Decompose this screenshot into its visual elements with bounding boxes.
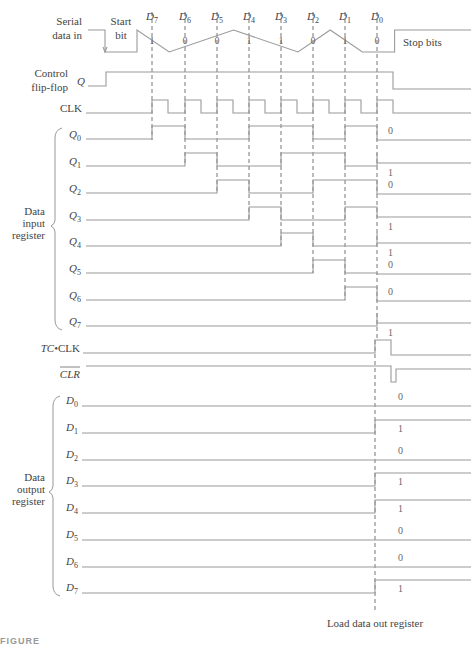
data-output-register: Data output register D00D11D20D31D41D50D… bbox=[12, 391, 471, 596]
bit-boundary-lines bbox=[152, 12, 377, 340]
final-value-d2: 0 bbox=[398, 445, 403, 456]
tc-clk-label: TC•CLK bbox=[41, 342, 80, 354]
output-group-label-1: Data bbox=[24, 471, 45, 483]
row-label-q2: Q2 bbox=[69, 182, 81, 197]
waveform-d4 bbox=[82, 500, 471, 513]
row-label-q1: Q1 bbox=[69, 155, 81, 170]
serial-data-row: Serial data in Start bit Stop bits D7D6D… bbox=[52, 10, 471, 52]
bit-names: D7D6D5D4D3D2D1D0 bbox=[145, 10, 383, 25]
row-label-d1: D1 bbox=[65, 421, 78, 436]
control-label-1: Control bbox=[34, 67, 68, 79]
bit-name-d0: D0 bbox=[370, 10, 383, 25]
start-bit-label-1: Start bbox=[111, 15, 132, 27]
waveform-d3 bbox=[82, 473, 471, 486]
bit-name-d4: D4 bbox=[242, 10, 255, 25]
final-value-q7: 1 bbox=[388, 327, 393, 338]
row-label-d7: D7 bbox=[65, 581, 78, 596]
bit-value-d7: 1 bbox=[150, 35, 155, 46]
row-label-q6: Q6 bbox=[69, 289, 81, 304]
serial-label-2: data in bbox=[52, 29, 82, 41]
output-brace bbox=[49, 396, 60, 596]
waveform-q3 bbox=[86, 207, 471, 220]
bit-name-d3: D3 bbox=[274, 10, 287, 25]
row-label-q3: Q3 bbox=[69, 209, 81, 224]
final-value-d4: 1 bbox=[398, 503, 403, 514]
clk-label: CLK bbox=[60, 102, 82, 114]
final-value-q4: 1 bbox=[388, 247, 393, 258]
waveform-q0 bbox=[86, 126, 471, 140]
waveform-q7 bbox=[86, 313, 471, 326]
waveform-d7 bbox=[82, 580, 471, 593]
final-value-q0: 0 bbox=[388, 125, 393, 136]
bit-value-d0: 0 bbox=[375, 35, 380, 46]
row-label-q5: Q5 bbox=[69, 262, 81, 277]
waveform-d1 bbox=[82, 420, 471, 433]
final-value-d3: 1 bbox=[398, 476, 403, 487]
final-value-q3: 1 bbox=[388, 221, 393, 232]
bit-name-d6: D6 bbox=[178, 10, 191, 25]
input-group-label-1: Data bbox=[24, 205, 45, 217]
row-label-d3: D3 bbox=[65, 474, 78, 489]
clr-waveform bbox=[86, 366, 471, 382]
input-brace bbox=[51, 128, 62, 330]
stop-bits-label: Stop bits bbox=[403, 36, 442, 48]
row-label-q4: Q4 bbox=[69, 235, 81, 250]
tc-clk-row: TC•CLK bbox=[41, 340, 471, 355]
control-label-2: flip-flop bbox=[31, 81, 68, 93]
tc-clk-waveform bbox=[83, 340, 471, 355]
input-group-label-3: register bbox=[12, 229, 45, 241]
data-input-register: Data input register Q00Q11Q20Q31Q41Q50Q6… bbox=[12, 125, 471, 338]
row-label-q0: Q0 bbox=[69, 128, 81, 143]
clk-waveform bbox=[86, 100, 471, 113]
bit-name-d7: D7 bbox=[145, 10, 158, 25]
bit-value-d3: 1 bbox=[279, 35, 284, 46]
bit-value-d2: 0 bbox=[311, 35, 316, 46]
final-value-q2: 0 bbox=[388, 179, 393, 190]
bit-name-d1: D1 bbox=[338, 10, 351, 25]
row-label-q7: Q7 bbox=[69, 315, 81, 330]
control-ff-row: Control flip-flop Q bbox=[31, 67, 471, 93]
bit-value-d6: 0 bbox=[183, 35, 188, 46]
bit-name-d2: D2 bbox=[306, 10, 319, 25]
final-value-d1: 1 bbox=[398, 423, 403, 434]
bit-value-d1: 1 bbox=[343, 35, 348, 46]
final-value-d6: 0 bbox=[398, 552, 403, 563]
clk-row: CLK bbox=[60, 100, 471, 114]
output-group-label-3: register bbox=[12, 495, 45, 507]
bit-value-d5: 0 bbox=[215, 35, 220, 46]
output-group-label-2: output bbox=[17, 483, 45, 495]
control-q-waveform bbox=[88, 72, 471, 89]
bit-value-d4: 1 bbox=[247, 35, 252, 46]
bit-name-d5: D5 bbox=[210, 10, 223, 25]
waveform-q1 bbox=[86, 153, 471, 166]
waveform-q6 bbox=[86, 287, 471, 301]
waveform-q5 bbox=[86, 260, 471, 274]
row-label-d4: D4 bbox=[65, 501, 78, 516]
row-label-d5: D5 bbox=[65, 528, 78, 543]
final-value-d0: 0 bbox=[398, 391, 403, 402]
row-label-d6: D6 bbox=[65, 555, 78, 570]
clr-row: CLR bbox=[60, 366, 471, 382]
input-group-label-2: input bbox=[22, 217, 45, 229]
clr-label: CLR bbox=[60, 368, 80, 380]
final-value-q6: 0 bbox=[388, 286, 393, 297]
final-value-d5: 0 bbox=[398, 525, 403, 536]
final-value-q5: 0 bbox=[388, 259, 393, 270]
waveform-q4 bbox=[86, 233, 471, 246]
serial-label-1: Serial bbox=[56, 15, 82, 27]
start-bit-label-2: bit bbox=[115, 29, 127, 41]
final-value-d7: 1 bbox=[398, 583, 403, 594]
final-value-q1: 1 bbox=[388, 167, 393, 178]
load-data-out-label: Load data out register bbox=[327, 617, 424, 629]
row-label-d0: D0 bbox=[65, 394, 78, 409]
figure-caption: FIGURE bbox=[0, 636, 40, 645]
timing-diagram: Serial data in Start bit Stop bits D7D6D… bbox=[0, 0, 471, 645]
row-label-d2: D2 bbox=[65, 448, 78, 463]
waveform-q2 bbox=[86, 180, 471, 194]
control-q-label: Q bbox=[77, 75, 85, 87]
